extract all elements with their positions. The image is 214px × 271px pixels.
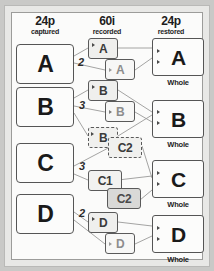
restored-frame-b-caption: Whole [152, 140, 204, 149]
field-marker-icon [157, 49, 160, 53]
field-marker-icon [157, 110, 160, 114]
diagram-canvas: 24p captured 60i recorded 24p restored [0, 0, 214, 271]
field-marker-icon [92, 43, 95, 47]
captured-frame-a-label: A [37, 53, 53, 76]
field-marker-icon [157, 182, 160, 186]
cadence-label-c: 3 [79, 160, 85, 172]
field-marker-icon [157, 121, 160, 125]
restored-frame-c-label: C [171, 169, 185, 190]
field-marker-icon [157, 60, 160, 64]
recorded-field-a1[interactable]: A [88, 38, 118, 59]
field-marker-icon [109, 110, 112, 114]
restored-frame-d-label: D [171, 224, 185, 245]
field-marker-icon [92, 85, 95, 89]
recorded-field-a1-label: A [99, 43, 107, 55]
restored-frame-b-label: B [171, 109, 185, 130]
field-marker-icon [109, 68, 112, 72]
recorded-field-d2[interactable]: D [105, 233, 135, 254]
restored-frame-a-label: A [171, 47, 185, 68]
recorded-field-b1-label: B [99, 85, 107, 97]
recorded-field-b1[interactable]: B [88, 80, 118, 101]
restored-frame-a-caption: Whole [152, 78, 204, 87]
recorded-field-c2-dashed-label: C2 [118, 142, 132, 154]
recorded-field-c2-label: C2 [117, 193, 131, 205]
recorded-field-b3-label: B [99, 132, 107, 144]
field-marker-icon [157, 226, 160, 230]
cadence-label-a: 2 [78, 56, 84, 68]
recorded-field-b2-label: B [116, 106, 124, 118]
field-marker-icon [157, 171, 160, 175]
field-marker-icon [109, 242, 112, 246]
restored-frame-b[interactable]: B [152, 100, 204, 138]
recorded-field-d2-label: D [116, 238, 124, 250]
field-marker-icon [91, 132, 94, 136]
recorded-field-a2[interactable]: A [105, 59, 135, 80]
restored-frame-c-caption: Whole [152, 200, 204, 209]
recorded-field-a2-label: A [116, 64, 124, 76]
recorded-field-d1[interactable]: D [88, 212, 118, 233]
captured-frame-d-label: D [37, 203, 53, 226]
restored-frame-c[interactable]: C [152, 160, 204, 198]
captured-frame-c[interactable]: C [16, 143, 74, 183]
captured-frame-c-label: C [37, 152, 53, 175]
field-marker-icon [92, 217, 95, 221]
captured-frame-d[interactable]: D [16, 194, 74, 234]
recorded-field-d1-label: D [99, 217, 107, 229]
cadence-label-d: 2 [79, 207, 85, 219]
restored-frame-d-caption: Whole [152, 255, 204, 264]
captured-frame-b-label: B [37, 96, 53, 119]
restored-frame-a[interactable]: A [152, 38, 204, 76]
recorded-field-c2-dashed[interactable]: C2 [108, 137, 142, 158]
captured-frame-a[interactable]: A [16, 44, 74, 84]
captured-frame-b[interactable]: B [16, 87, 74, 127]
field-marker-icon [157, 237, 160, 241]
restored-frame-d[interactable]: D [152, 215, 204, 253]
recorded-field-b2[interactable]: B [105, 101, 135, 122]
cadence-label-b: 3 [79, 99, 85, 111]
recorded-field-c2[interactable]: C2 [107, 188, 141, 209]
recorded-field-c1-label: C1 [98, 175, 112, 187]
